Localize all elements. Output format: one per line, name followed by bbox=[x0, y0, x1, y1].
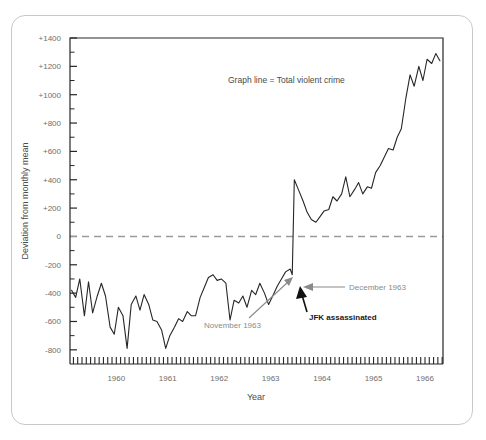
y-tick-label: -800 bbox=[45, 346, 62, 355]
y-tick-label: +400 bbox=[43, 176, 62, 185]
jfk-assassinated-label: JFK assassinated bbox=[309, 313, 377, 322]
x-tick-label: 1963 bbox=[262, 374, 280, 383]
x-tick-label: 1966 bbox=[416, 374, 434, 383]
x-tick-label: 1960 bbox=[107, 374, 125, 383]
y-tick-label: +1200 bbox=[39, 62, 62, 71]
plot-frame bbox=[70, 38, 443, 364]
december-1963-label: December 1963 bbox=[349, 283, 406, 292]
x-axis-label: Year bbox=[247, 392, 265, 402]
data-series-group bbox=[72, 54, 440, 349]
x-tick-label: 1962 bbox=[210, 374, 228, 383]
november-1963-label: November 1963 bbox=[204, 321, 261, 330]
y-tick-label: -600 bbox=[45, 317, 62, 326]
y-tick-label: +1000 bbox=[39, 91, 62, 100]
annotation-december-1963: December 1963 bbox=[303, 283, 406, 292]
y-tick-label: 0 bbox=[57, 232, 62, 241]
y-tick-label: +200 bbox=[43, 204, 62, 213]
violent-crime-chart: Deviation from monthly mean Year Graph l… bbox=[0, 0, 486, 440]
y-tick-label: -400 bbox=[45, 289, 62, 298]
x-tick-label: 1961 bbox=[159, 374, 177, 383]
x-axis-ticks: 1960196119621963196419651966 bbox=[73, 357, 442, 383]
legend-note: Graph line = Total violent crime bbox=[228, 75, 345, 85]
y-tick-label: -200 bbox=[45, 261, 62, 270]
y-tick-label: +800 bbox=[43, 119, 62, 128]
jfk-arrowhead bbox=[296, 286, 307, 299]
y-axis-label: Deviation from monthly mean bbox=[20, 142, 30, 259]
december-1963-arrowhead bbox=[303, 283, 313, 291]
x-tick-label: 1965 bbox=[365, 374, 383, 383]
november-1963-leader-line bbox=[249, 282, 288, 318]
y-tick-label: +600 bbox=[43, 147, 62, 156]
x-tick-label: 1964 bbox=[313, 374, 331, 383]
y-axis-ticks: -800-600-400-2000+200+400+600+800+1000+1… bbox=[39, 34, 77, 355]
y-tick-label: +1400 bbox=[39, 34, 62, 43]
series-line bbox=[72, 54, 440, 349]
